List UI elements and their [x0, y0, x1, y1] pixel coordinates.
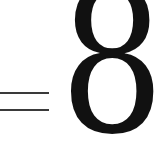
result-digit: 8: [60, 0, 156, 155]
equals-sign-bottom-bar: [0, 109, 49, 111]
equals-sign-top-bar: [0, 92, 49, 94]
